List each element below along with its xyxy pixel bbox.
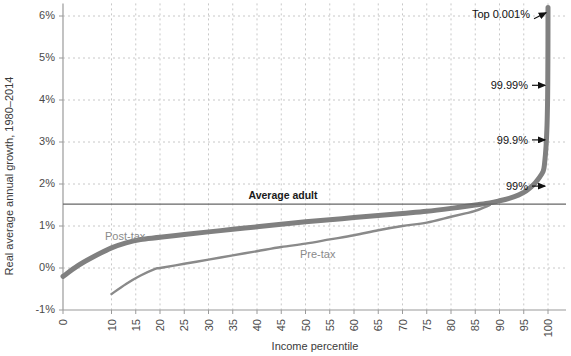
x-tick-label: 10 (106, 319, 118, 331)
x-tick-label: 0 (57, 319, 69, 325)
x-tick-label: 35 (227, 319, 239, 331)
series-label-post-tax: Post-tax (105, 230, 146, 242)
y-tick-label: 4% (39, 93, 55, 105)
x-tick-label: 60 (348, 319, 360, 331)
x-tick-label: 20 (154, 319, 166, 331)
annotation-label: Top 0.001% (472, 8, 530, 20)
annotation-label: 99% (506, 180, 528, 192)
y-axis-title: Real average annual growth, 1980–2014 (3, 77, 15, 276)
chart-container: -1%0%1%2%3%4%5%6% 0101520253035404550556… (0, 0, 571, 356)
y-tick-label: 3% (39, 135, 55, 147)
x-axis-title: Income percentile (272, 340, 359, 352)
x-tick-label: 85 (469, 319, 481, 331)
x-tick-label: 25 (178, 319, 190, 331)
y-tick-label: -1% (35, 303, 55, 315)
x-tick-label: 90 (494, 319, 506, 331)
x-tick-label: 75 (421, 319, 433, 331)
y-tick-label: 0% (39, 261, 55, 273)
x-tick-label: 95 (518, 319, 530, 331)
y-tick-label: 2% (39, 177, 55, 189)
chart-background (0, 0, 571, 356)
x-tick-label: 100 (542, 319, 554, 337)
x-tick-label: 55 (324, 319, 336, 331)
x-tick-label: 45 (275, 319, 287, 331)
x-tick-label: 65 (372, 319, 384, 331)
series-label-pre-tax: Pre-tax (300, 248, 336, 260)
x-tick-label: 80 (445, 319, 457, 331)
y-tick-label: 6% (39, 9, 55, 21)
average-adult-label: Average adult (248, 189, 318, 201)
annotation-label: 99.9% (497, 134, 528, 146)
growth-incidence-curve-chart: -1%0%1%2%3%4%5%6% 0101520253035404550556… (0, 0, 571, 356)
x-tick-label: 50 (300, 319, 312, 331)
x-tick-label: 70 (397, 319, 409, 331)
y-tick-label: 1% (39, 219, 55, 231)
x-tick-label: 15 (130, 319, 142, 331)
x-tick-label: 40 (251, 319, 263, 331)
x-tick-label: 30 (203, 319, 215, 331)
annotation-label: 99.99% (491, 79, 529, 91)
y-tick-label: 5% (39, 51, 55, 63)
